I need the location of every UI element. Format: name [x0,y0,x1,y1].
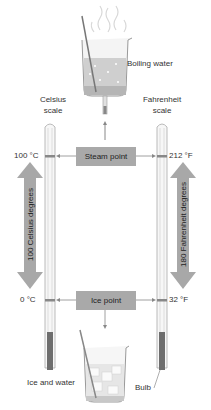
celsius-high-label: 100 °C [14,152,39,160]
bulb-label: Bulb [135,384,151,392]
fahrenheit-thermometer [157,124,167,370]
boiling-water-label: Boiling water [127,60,173,68]
ice-beaker [80,330,129,402]
fahrenheit-span-label: 180 Fahrenheit degrees [179,180,188,270]
fahrenheit-low-label: 32 °F [169,296,188,304]
fahrenheit-high-label: 212 °F [169,152,193,160]
celsius-thermometer [45,124,55,370]
steam-icon [91,6,126,32]
fahrenheit-scale-label: Fahrenheit scale [139,96,185,115]
ice-and-water-label: Ice and water [27,379,75,387]
celsius-low-label: 0 °C [20,296,36,304]
boiling-beaker [82,6,132,96]
celsius-span-label: 100 Celsius degrees [26,185,35,265]
boiling-thermometer-tip [103,96,107,114]
ice-point-box: Ice point [76,291,136,310]
celsius-scale-label: Celsius scale [34,96,72,115]
steam-point-box: Steam point [76,147,136,166]
